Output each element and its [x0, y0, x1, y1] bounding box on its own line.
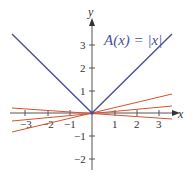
y-tick-label: 3: [80, 39, 86, 51]
x-tick-label: 3: [156, 118, 162, 130]
y-axis-label: y: [87, 5, 94, 19]
function-label: A(x) = |x|: [103, 32, 162, 49]
x-tick-label: 2: [134, 118, 140, 130]
y-tick-label: −2: [74, 153, 86, 165]
x-tick-label: 1: [112, 118, 118, 130]
y-axis-arrow-icon: [89, 18, 95, 26]
chart: −3 −2 −1 1 2 3 3 2 1 −1 −2 x y A(x) = |x…: [0, 0, 193, 179]
y-tick-label: 1: [80, 85, 86, 97]
chart-svg: −3 −2 −1 1 2 3 3 2 1 −1 −2 x y A(x) = |x…: [0, 0, 193, 179]
origin-point: [90, 111, 94, 115]
y-tick-label: 2: [80, 62, 86, 74]
x-axis-label: x: [177, 107, 184, 121]
y-tick-label: −1: [74, 130, 86, 142]
x-tick-label: −1: [64, 118, 76, 130]
